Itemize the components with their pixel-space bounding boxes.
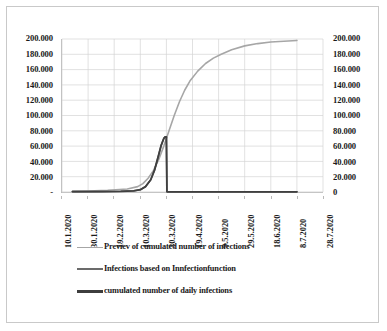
legend-item[interactable]: Previev of cumulated number of infection… xyxy=(77,240,249,254)
y-axis-left-tick-label: 200.000 xyxy=(26,34,53,43)
data-series-group xyxy=(62,39,323,192)
y-axis-left-tick-label: 180.000 xyxy=(26,50,53,59)
y-axis-left-tick-label: 120.000 xyxy=(26,96,53,105)
series-line-2 xyxy=(72,137,296,192)
chart-legend: Previev of cumulated number of infection… xyxy=(77,240,327,310)
x-axis-tick-mark xyxy=(140,196,141,199)
y-axis-left-tick-label: 20.000 xyxy=(30,173,53,182)
x-axis-tick-mark xyxy=(61,196,62,199)
legend-item-label: Previev of cumulated number of infection… xyxy=(104,243,249,251)
y-axis-right-tick-label: 40.000 xyxy=(333,158,356,167)
chart-frame: -20.00040.00060.00080.000100.000120.0001… xyxy=(6,6,379,323)
x-axis-tick-mark xyxy=(87,196,88,199)
x-axis-tick-mark xyxy=(297,196,298,199)
legend-color-swatch xyxy=(77,290,103,293)
y-axis-right-tick-label: 60.000 xyxy=(333,142,356,151)
y-axis-right: 020.00040.00060.00080.000100.000120.0001… xyxy=(327,39,383,193)
y-axis-left-tick-label: - xyxy=(50,188,53,197)
x-axis-tick-mark xyxy=(323,196,324,199)
y-axis-right-tick-label: 160.000 xyxy=(333,65,360,74)
y-axis-right-tick-label: 200.000 xyxy=(333,34,360,43)
legend-item-label: cumulated number of daily infections xyxy=(104,287,232,295)
y-axis-left-tick-label: 140.000 xyxy=(26,81,53,90)
x-axis-tick-mark xyxy=(113,196,114,199)
plot-area xyxy=(61,39,323,193)
y-axis-left-tick-label: 80.000 xyxy=(30,127,53,136)
legend-color-swatch xyxy=(77,268,103,270)
y-axis-right-tick-label: 140.000 xyxy=(333,81,360,90)
x-axis-tick-mark xyxy=(244,196,245,199)
y-axis-right-tick-label: 100.000 xyxy=(333,111,360,120)
legend-item[interactable]: cumulated number of daily infections xyxy=(77,284,232,298)
legend-color-swatch xyxy=(77,247,103,248)
series-line-1 xyxy=(72,137,296,192)
chart-canvas: -20.00040.00060.00080.000100.000120.0001… xyxy=(7,7,378,322)
y-axis-right-tick-label: 120.000 xyxy=(333,96,360,105)
y-axis-left-tick-label: 160.000 xyxy=(26,65,53,74)
y-axis-right-tick-label: 20.000 xyxy=(333,173,356,182)
x-axis-tick-mark xyxy=(271,196,272,199)
y-axis-right-tick-label: 180.000 xyxy=(333,50,360,59)
y-axis-left-tick-label: 40.000 xyxy=(30,158,53,167)
x-axis-tick-mark xyxy=(166,196,167,199)
y-axis-right-tick-label: 80.000 xyxy=(333,127,356,136)
legend-item-label: Infections based on Innfectionfunction xyxy=(104,265,236,273)
y-axis-left: -20.00040.00060.00080.000100.000120.0001… xyxy=(7,39,57,193)
y-axis-left-tick-label: 60.000 xyxy=(30,142,53,151)
y-axis-left-tick-label: 100.000 xyxy=(26,111,53,120)
y-axis-right-tick-label: 0 xyxy=(333,188,337,197)
x-axis-tick-mark xyxy=(192,196,193,199)
x-axis-tick-label: 10.1.2020 xyxy=(65,215,73,249)
series-line-0 xyxy=(72,41,296,192)
x-axis-tick-label: 28.7.2020 xyxy=(327,215,335,249)
x-axis-tick-mark xyxy=(218,196,219,199)
legend-item[interactable]: Infections based on Innfectionfunction xyxy=(77,262,236,276)
